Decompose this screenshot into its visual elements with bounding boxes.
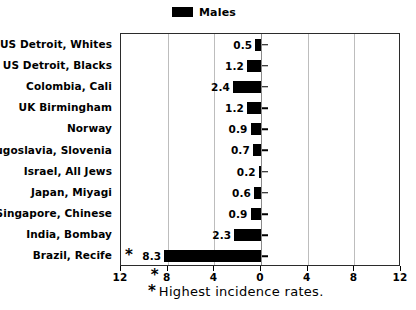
row-tick-mark <box>262 234 268 236</box>
bar-row: 1.2 <box>121 55 399 76</box>
row-tick-mark <box>262 256 268 258</box>
row-tick-mark <box>262 129 268 131</box>
y-axis-label: Singapore, Chinese <box>0 208 112 219</box>
bar-row: 0.6 <box>121 182 399 203</box>
y-axis-label: Colombia, Cali <box>26 80 112 91</box>
bar-value-label: 0.5 <box>232 40 252 50</box>
y-axis-label: US Detroit, Blacks <box>3 59 112 70</box>
bar-row: 2.4 <box>121 76 399 97</box>
bar <box>255 39 261 51</box>
bar <box>247 60 261 72</box>
asterisk-icon: * <box>151 269 159 281</box>
bar-row: 0.2 <box>121 161 399 182</box>
legend-label-males: Males <box>199 7 236 18</box>
bar-value-label: 0.9 <box>228 209 248 219</box>
legend-entry-males: Males <box>172 7 236 18</box>
bar-value-label: 1.2 <box>224 61 244 71</box>
bar <box>233 81 261 93</box>
x-tick-label: 12 <box>113 271 128 283</box>
y-axis-label: US Detroit, Whites <box>0 38 112 49</box>
y-axis-label: India, Bombay <box>26 229 112 240</box>
x-tick-label: 0 <box>256 271 263 283</box>
legend-swatch-males <box>172 7 193 17</box>
y-axis-label: UK Birmingham <box>19 102 112 113</box>
x-tick-label: 12 <box>393 271 408 283</box>
y-axis-label: Israel, All Jews <box>24 165 112 176</box>
chart-legend: Males <box>0 2 416 22</box>
x-tick-label: 4 <box>303 271 310 283</box>
bar-row: 8.3* <box>121 246 399 267</box>
asterisk-icon: * <box>148 285 156 297</box>
bar-row: 2.3 <box>121 225 399 246</box>
bar-row: 0.9 <box>121 119 399 140</box>
bar-row: 1.2 <box>121 98 399 119</box>
row-tick-mark <box>262 171 268 173</box>
bar-value-label: 0.2 <box>236 167 256 177</box>
asterisk-icon: * <box>125 251 133 261</box>
x-tick-label: 4 <box>210 271 217 283</box>
bar-value-label: 0.9 <box>228 124 248 134</box>
row-tick-mark <box>262 107 268 109</box>
bar-value-label: 8.3 <box>141 251 161 261</box>
bar-value-label: 1.2 <box>224 103 244 113</box>
y-axis-label: Japan, Miyagi <box>31 186 112 197</box>
bar <box>251 123 262 135</box>
bar-row: 0.5 <box>121 34 399 55</box>
bar-value-label: 0.6 <box>231 188 251 198</box>
bar-value-label: 2.4 <box>210 82 230 92</box>
row-tick-mark <box>262 150 268 152</box>
bar <box>234 229 261 241</box>
row-tick-mark <box>262 86 268 88</box>
chart-caption: * Highest incidence rates. <box>148 285 324 299</box>
x-tick-label: 8 <box>163 271 170 283</box>
bar-value-label: 2.3 <box>211 230 231 240</box>
caption-text: Highest incidence rates. <box>159 285 324 299</box>
bar <box>254 187 261 199</box>
bar <box>259 166 261 178</box>
y-axis-category-labels: US Detroit, WhitesUS Detroit, BlacksColo… <box>0 33 116 266</box>
bar-value-label: 0.7 <box>230 145 250 155</box>
plot-area: 0.51.22.41.20.90.70.20.60.92.38.3* <box>120 33 400 266</box>
plot-inner: 0.51.22.41.20.90.70.20.60.92.38.3* <box>121 34 399 265</box>
y-axis-label: Brazil, Recife <box>33 250 112 261</box>
bar-row: 0.7 <box>121 140 399 161</box>
bar <box>164 250 261 262</box>
chart-figure: Males US Detroit, WhitesUS Detroit, Blac… <box>0 0 416 310</box>
bar <box>253 144 261 156</box>
x-tick-label: 8 <box>350 271 357 283</box>
row-tick-mark <box>262 192 268 194</box>
y-axis-label: Yugoslavia, Slovenia <box>0 144 112 155</box>
y-axis-label: Norway <box>67 123 112 134</box>
row-tick-mark <box>262 213 268 215</box>
row-tick-mark <box>262 44 268 46</box>
row-tick-mark <box>262 65 268 67</box>
bar <box>247 102 261 114</box>
bar <box>251 208 262 220</box>
bar-row: 0.9 <box>121 203 399 224</box>
